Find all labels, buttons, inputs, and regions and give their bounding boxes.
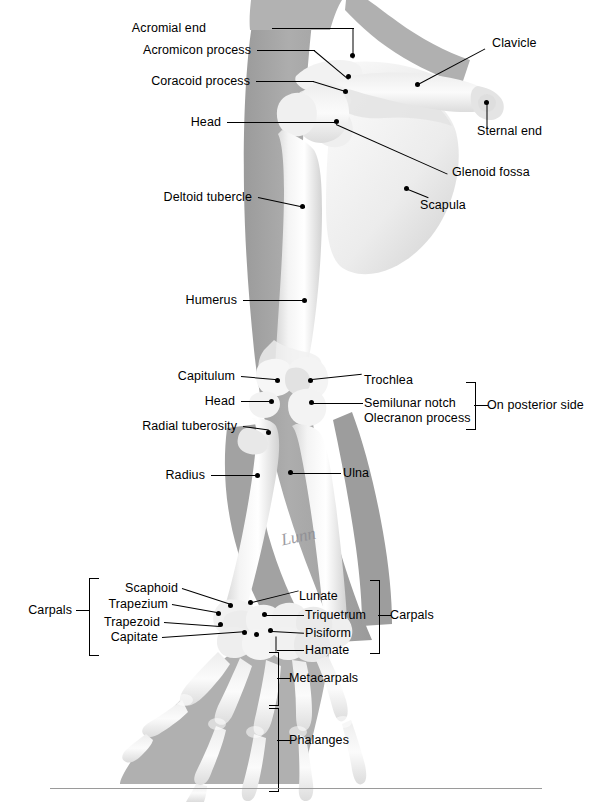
- label-coracoid-process: Coracoid process: [55, 74, 250, 88]
- label-lunate: Lunate: [299, 589, 338, 603]
- label-phalanges: Phalanges: [289, 733, 349, 747]
- label-head-humerus: Head: [146, 115, 221, 129]
- label-trapezium: Trapezium: [40, 597, 168, 611]
- label-head-radius: Head: [155, 394, 235, 408]
- label-acromial-end: Acromial end: [86, 21, 206, 35]
- label-trapezoid: Trapezoid: [35, 615, 160, 629]
- metacarpals-bracket: [269, 652, 279, 706]
- label-trochlea: Trochlea: [364, 373, 413, 387]
- label-radial-tuberosity: Radial tuberosity: [75, 419, 237, 433]
- posterior-side-bracket: [466, 382, 476, 430]
- label-olecranon-process: Olecranon process: [364, 411, 471, 425]
- label-glenoid-fossa: Glenoid fossa: [452, 165, 530, 179]
- label-scaphoid: Scaphoid: [60, 581, 178, 595]
- label-triquetrum: Triquetrum: [305, 608, 366, 622]
- label-humerus: Humerus: [132, 293, 237, 307]
- label-semilunar-notch: Semilunar notch: [364, 396, 456, 410]
- label-carpals-right: Carpals: [390, 608, 434, 622]
- label-capitate: Capitate: [36, 630, 158, 644]
- label-on-posterior-side: On posterior side: [487, 398, 584, 412]
- label-clavicle: Clavicle: [492, 36, 537, 50]
- label-capitulum: Capitulum: [125, 369, 235, 383]
- label-ulna: Ulna: [343, 466, 369, 480]
- carpals-bracket-right: [370, 580, 380, 654]
- label-scapula: Scapula: [420, 198, 466, 212]
- bottom-rule: [50, 788, 542, 789]
- label-hamate: Hamate: [305, 643, 349, 657]
- label-acromion-process: Acromicon process: [46, 43, 251, 57]
- label-radius: Radius: [130, 468, 205, 482]
- label-deltoid-tubercle: Deltoid tubercle: [92, 190, 252, 204]
- label-metacarpals: Metacarpals: [289, 671, 358, 685]
- phalanges-bracket: [269, 708, 279, 792]
- figure-canvas: Lunn Acromial end Acromicon process Cora…: [0, 0, 592, 804]
- label-pisiform: Pisiform: [305, 626, 351, 640]
